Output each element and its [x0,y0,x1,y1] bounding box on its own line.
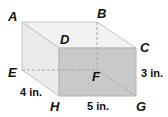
vertex-label-a: A [7,9,17,24]
dimension-length: 5 in. [87,100,109,112]
vertex-label-d: D [60,32,70,47]
vertex-label-h: H [50,99,60,114]
prism-diagram: A B C D E F G H 4 in. 5 in. 3 in. [0,0,168,117]
vertex-label-c: C [140,40,150,55]
dimension-depth: 4 in. [20,86,42,98]
vertex-label-g: G [136,99,146,114]
vertex-label-f: F [92,69,101,84]
dimension-height: 3 in. [141,67,163,79]
vertex-label-b: B [97,6,106,21]
vertex-label-e: E [8,65,17,80]
